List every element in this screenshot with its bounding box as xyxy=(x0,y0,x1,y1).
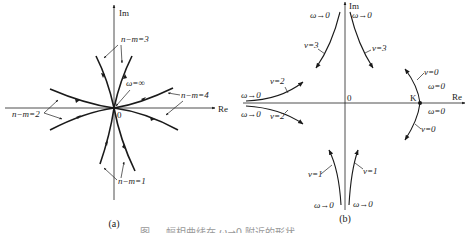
label-omega-bl: ω→0 xyxy=(314,200,334,210)
label-v3-left: v=3 xyxy=(304,40,319,50)
re-label: Re xyxy=(452,92,462,102)
figure-caption: 图 ... 幅相曲线在 ω→0 附近的形状 xyxy=(140,226,295,233)
figure-a: Im Re 0 n−m=3 ω=∞ n−m=4 n−m=2 xyxy=(5,5,228,230)
label-v0-upper: v=0 xyxy=(424,67,439,77)
origin-label: 0 xyxy=(347,93,352,103)
origin-label: 0 xyxy=(117,110,122,120)
leader-line xyxy=(321,165,332,174)
subfigure-label-a: (a) xyxy=(108,218,119,230)
label-v2-lower: v=2 xyxy=(270,111,285,121)
curve-v0-lower xyxy=(405,103,420,140)
label-v2-upper: v=2 xyxy=(270,76,285,86)
curve-v3-left xyxy=(316,12,340,68)
label-omega-tl: ω→0 xyxy=(310,10,330,20)
leader-line xyxy=(318,49,325,54)
label-nm4: n−m=4 xyxy=(181,90,209,100)
leader-line xyxy=(121,45,122,63)
subfigure-label-b: (b) xyxy=(339,213,351,225)
label-omega-br: ω→0 xyxy=(353,199,373,209)
label-v3-right: v=3 xyxy=(372,43,387,53)
label-v1-right: v=1 xyxy=(363,166,378,176)
leader-line xyxy=(44,113,62,119)
curve-nm4-lower xyxy=(114,108,178,130)
im-label: Im xyxy=(119,8,129,18)
diagram-canvas: Im Re 0 n−m=3 ω=∞ n−m=4 n−m=2 xyxy=(0,0,466,233)
leader-line xyxy=(168,93,180,95)
leader-line xyxy=(104,168,117,180)
figure-b: Im Re 0 K ω→0 ω→0 v=3 v=3 v=2 v=2 ω→0 ω→… xyxy=(241,1,465,225)
leader-line xyxy=(285,110,288,113)
leader-line xyxy=(355,163,363,169)
leader-line xyxy=(44,100,58,113)
curve-v1-left xyxy=(329,150,341,205)
label-omega0-upper: ω=0 xyxy=(428,81,445,91)
label-omega-inf: ω=∞ xyxy=(126,78,145,88)
curve-nm1-left xyxy=(100,108,114,164)
curve-v1-right xyxy=(349,150,358,205)
leader-line xyxy=(417,73,424,80)
label-nm3: n−m=3 xyxy=(121,34,149,44)
label-v0-lower: v=0 xyxy=(421,124,436,134)
label-nm1: n−m=1 xyxy=(118,176,146,186)
label-omega-tr: ω→0 xyxy=(352,10,372,20)
leader-line xyxy=(104,45,118,58)
label-omega0-lower: ω=0 xyxy=(428,106,445,116)
curve-v3-right xyxy=(350,12,373,68)
re-label: Re xyxy=(218,104,228,114)
label-nm2: n−m=2 xyxy=(12,109,40,119)
curve-nm2-lower xyxy=(50,108,114,130)
label-omega-ml2: ω→0 xyxy=(241,109,261,119)
k-point-label: K xyxy=(410,93,417,103)
label-v1-left: v=1 xyxy=(308,169,323,179)
curve-nm3-left xyxy=(96,56,114,108)
curve-nm2-upper xyxy=(50,89,114,108)
leader-line xyxy=(365,50,371,53)
caption-text: 图 ... 幅相曲线在 ω→0 附近的形状 xyxy=(140,226,295,233)
label-omega-ml: ω→0 xyxy=(241,90,261,100)
